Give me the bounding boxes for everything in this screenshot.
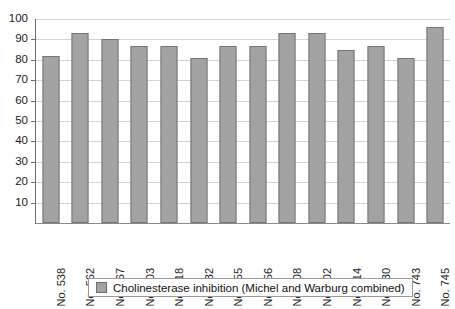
- bars-layer: [36, 19, 450, 223]
- bar[interactable]: [279, 33, 296, 223]
- bar-slot: [213, 19, 243, 223]
- bar[interactable]: [72, 33, 89, 223]
- x-tick-label: No. 538: [56, 268, 67, 307]
- legend-swatch-icon: [96, 282, 107, 293]
- bar-slot: [332, 19, 362, 223]
- bar[interactable]: [190, 58, 207, 223]
- bar-slot: [66, 19, 96, 223]
- bar-slot: [420, 19, 450, 223]
- y-tick-mark: [31, 101, 36, 102]
- bar[interactable]: [397, 58, 414, 223]
- bar-slot: [243, 19, 273, 223]
- chart-legend: Cholinesterase inhibition (Michel and Wa…: [88, 278, 413, 297]
- y-tick-label: 90: [15, 33, 28, 45]
- bar[interactable]: [368, 46, 385, 223]
- bar-chart: 100908070605040302010 No. 538No. 562No. …: [0, 0, 455, 309]
- bar-slot: [391, 19, 421, 223]
- x-tick-label: No. 745: [440, 268, 451, 307]
- y-tick-label: 20: [15, 176, 28, 188]
- y-tick-label: 80: [15, 54, 28, 66]
- x-axis-labels: No. 538No. 562No. 567No. 603No. 618No. 6…: [36, 224, 450, 270]
- bar[interactable]: [101, 39, 118, 223]
- bar-slot: [36, 19, 66, 223]
- bar-slot: [273, 19, 303, 223]
- bar-slot: [184, 19, 214, 223]
- y-tick-mark: [31, 60, 36, 61]
- y-tick-mark: [31, 162, 36, 163]
- y-tick-label: 40: [15, 135, 28, 147]
- bar[interactable]: [249, 46, 266, 223]
- y-tick-label: 60: [15, 95, 28, 107]
- bar-slot: [154, 19, 184, 223]
- y-tick-mark: [31, 121, 36, 122]
- bar[interactable]: [220, 46, 237, 223]
- y-tick-label: 70: [15, 74, 28, 86]
- y-tick-label: 10: [15, 197, 28, 209]
- bar[interactable]: [161, 46, 178, 223]
- y-axis-labels: 100908070605040302010: [0, 0, 31, 309]
- bar[interactable]: [427, 27, 444, 223]
- legend-label: Cholinesterase inhibition (Michel and Wa…: [113, 282, 405, 294]
- y-tick-label: 100: [9, 13, 28, 25]
- bar[interactable]: [308, 33, 325, 223]
- y-tick-label: 30: [15, 156, 28, 168]
- y-tick-mark: [31, 203, 36, 204]
- bar-slot: [125, 19, 155, 223]
- bar-slot: [95, 19, 125, 223]
- bar-slot: [361, 19, 391, 223]
- bar[interactable]: [42, 56, 59, 223]
- bar[interactable]: [338, 50, 355, 223]
- y-tick-mark: [31, 39, 36, 40]
- bar[interactable]: [131, 46, 148, 223]
- y-tick-label: 50: [15, 115, 28, 127]
- y-tick-mark: [31, 182, 36, 183]
- bar-slot: [302, 19, 332, 223]
- plot-area: [36, 19, 450, 223]
- y-tick-mark: [31, 80, 36, 81]
- y-tick-mark: [31, 141, 36, 142]
